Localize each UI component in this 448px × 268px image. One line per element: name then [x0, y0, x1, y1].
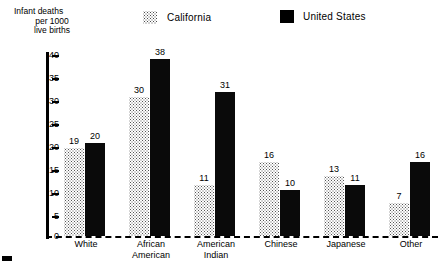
y-tick-mark-40 — [52, 55, 59, 57]
y-tick-15: 15 — [18, 166, 59, 175]
bar-value-chinese-united-states: 10 — [280, 179, 300, 188]
bar-group-chinese: 1610 — [259, 50, 303, 236]
bar-japanese-california — [324, 176, 344, 236]
y-tick-25: 25 — [18, 120, 59, 129]
bar-african-american-california — [129, 97, 149, 237]
x-category-african-american-line-1: African — [137, 239, 165, 249]
y-tick-5: 5 — [18, 212, 59, 221]
x-category-label-white: White — [64, 239, 108, 250]
x-category-chinese-line-1: Chinese — [264, 239, 297, 249]
bar-group-american-indian: 1131 — [194, 50, 238, 236]
x-category-white-line-1: White — [74, 239, 97, 249]
bar-african-american-united-states — [150, 59, 170, 236]
x-category-label-american-indian: American Indian — [185, 239, 247, 260]
bar-group-other: 716 — [389, 50, 433, 236]
page-corner-mark — [2, 256, 12, 261]
x-category-label-african-american: African American — [120, 239, 182, 260]
bar-value-chinese-california: 16 — [259, 151, 279, 160]
bar-value-african-american-california: 30 — [129, 86, 149, 95]
x-category-label-japanese: Japanese — [317, 239, 375, 250]
x-axis-baseline — [46, 236, 438, 238]
bar-value-other-united-states: 16 — [410, 151, 430, 160]
bar-value-japanese-california: 13 — [324, 165, 344, 174]
bar-group-white: 1920 — [64, 50, 108, 236]
bar-value-japanese-united-states: 11 — [345, 174, 365, 183]
y-tick-mark-10 — [52, 193, 59, 195]
x-category-label-chinese: Chinese — [254, 239, 308, 250]
bar-white-united-states — [85, 143, 105, 236]
y-tick-mark-5 — [52, 216, 59, 218]
y-tick-10: 10 — [18, 189, 59, 198]
bar-american-indian-california — [194, 185, 214, 236]
y-tick-20: 20 — [18, 143, 59, 152]
x-category-japanese-line-1: Japanese — [326, 239, 365, 249]
bar-japanese-united-states — [345, 185, 365, 236]
bar-group-japanese: 1311 — [324, 50, 368, 236]
y-tick-mark-30 — [52, 101, 59, 103]
bar-value-american-indian-united-states: 31 — [215, 81, 235, 90]
x-category-american-indian-line-1: American — [197, 239, 235, 249]
x-category-other-line-1: Other — [400, 239, 423, 249]
bar-chinese-united-states — [280, 190, 300, 237]
plot-area: 40 35 30 25 20 15 10 5 — [0, 0, 448, 268]
x-category-american-indian-line-2: Indian — [204, 250, 229, 260]
y-tick-30: 30 — [18, 97, 59, 106]
bar-white-california — [64, 148, 84, 236]
bar-value-american-indian-california: 11 — [194, 174, 214, 183]
bar-value-other-california: 7 — [389, 192, 409, 201]
x-category-african-american-line-2: American — [132, 250, 170, 260]
y-tick-mark-25 — [52, 124, 59, 126]
infant-mortality-bar-chart: California United States Infant deaths p… — [0, 0, 448, 268]
bar-other-united-states — [410, 162, 430, 236]
bar-chinese-california — [259, 162, 279, 236]
y-tick-40: 40 — [18, 51, 59, 60]
bar-value-white-united-states: 20 — [85, 132, 105, 141]
bar-other-california — [389, 203, 409, 236]
y-tick-mark-20 — [52, 147, 59, 149]
x-category-label-other: Other — [386, 239, 436, 250]
bar-american-indian-united-states — [215, 92, 235, 236]
y-tick-mark-15 — [52, 170, 59, 172]
bar-group-african-american: 3038 — [129, 50, 173, 236]
y-tick-35: 35 — [18, 74, 59, 83]
bar-value-white-california: 19 — [64, 137, 84, 146]
bar-value-african-american-united-states: 38 — [150, 48, 170, 57]
y-tick-mark-35 — [52, 78, 59, 80]
